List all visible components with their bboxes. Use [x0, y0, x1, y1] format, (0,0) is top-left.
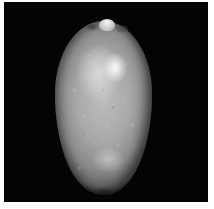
shell-apex-highlight [99, 19, 115, 31]
cowrie-shell [55, 21, 152, 194]
photo-frame [4, 2, 208, 202]
shell-mottled-pattern [55, 21, 152, 194]
shell-apex-shadow-right [115, 25, 129, 33]
shell-apex-shadow-left [85, 23, 99, 31]
shell-base-notch [93, 187, 115, 195]
